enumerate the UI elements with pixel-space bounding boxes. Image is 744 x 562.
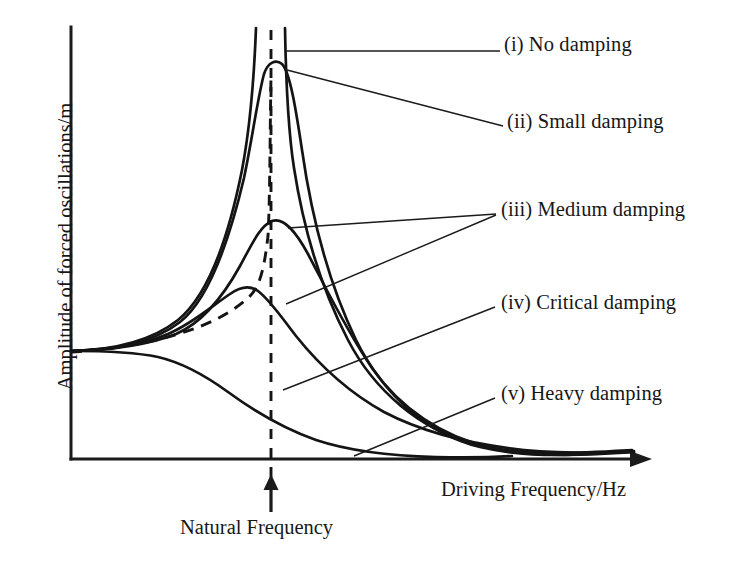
peak-locus-dashed-curve: [71, 76, 271, 352]
legend-label-critical-damping: (iv) Critical damping: [501, 291, 676, 314]
resonance-diagram: (i) No damping (ii) Small damping (iii) …: [0, 0, 744, 562]
curve-heavy-damping: [71, 351, 512, 457]
natural-frequency-arrowhead: [264, 474, 279, 490]
legend-label-heavy-damping: (v) Heavy damping: [501, 382, 662, 405]
curve-heavy-damping-path: [71, 351, 512, 457]
legend-label-no-damping: (i) No damping: [504, 33, 632, 56]
x-axis-label: Driving Frequency/Hz: [441, 478, 626, 501]
leader-line-medium-damping-upper: [288, 214, 496, 228]
peak-locus-group: [71, 76, 271, 352]
legend-label-small-damping: (ii) Small damping: [507, 110, 664, 133]
leader-line-critical-damping: [283, 307, 495, 390]
y-axis-label: Amplitude of forced oscillations/m: [54, 57, 77, 437]
diagram-canvas: [0, 0, 744, 562]
natural-frequency-label: Natural Frequency: [180, 516, 333, 539]
leader-line-small-damping: [287, 70, 503, 126]
curve-no-damping-left-branch: [71, 28, 256, 351]
legend-label-medium-damping: (iii) Medium damping: [501, 198, 685, 221]
